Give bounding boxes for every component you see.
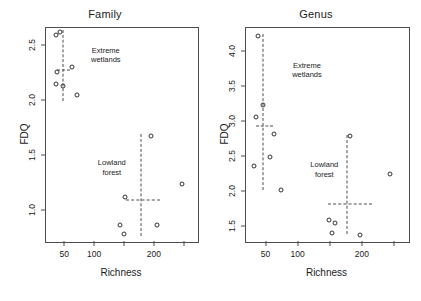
data-point bbox=[260, 102, 265, 107]
data-point bbox=[54, 70, 59, 75]
plot-area-family: Extreme wetlandsLowland forest bbox=[46, 28, 198, 242]
plot-area-genus: Extreme wetlandsLowland forest bbox=[246, 28, 409, 242]
data-point bbox=[329, 230, 334, 235]
x-tick-label: 50 bbox=[59, 249, 68, 259]
y-tick-label: 1.0 bbox=[26, 205, 38, 215]
x-tick bbox=[329, 241, 330, 246]
data-point bbox=[278, 188, 283, 193]
data-point bbox=[253, 115, 258, 120]
x-tick bbox=[94, 241, 95, 246]
data-point bbox=[347, 134, 352, 139]
x-axis-title-genus: Richness bbox=[306, 267, 347, 278]
y-tick bbox=[241, 121, 245, 122]
cluster-label-lowland-forest: Lowland forest bbox=[98, 158, 126, 177]
x-tick bbox=[183, 241, 184, 246]
data-point bbox=[267, 154, 272, 159]
crosshair-vertical-extreme-wetlands bbox=[263, 34, 264, 189]
y-axis-title-genus: FDQ bbox=[219, 123, 230, 144]
x-tick bbox=[297, 241, 298, 246]
crosshair-horizontal-extreme-wetlands bbox=[256, 125, 273, 126]
data-point bbox=[69, 64, 74, 69]
y-tick-label: 2.0 bbox=[26, 95, 38, 105]
data-point bbox=[252, 164, 257, 169]
y-tick-label: 3.5 bbox=[226, 81, 238, 91]
data-point bbox=[358, 233, 363, 238]
data-point bbox=[255, 33, 260, 38]
y-tick bbox=[41, 154, 45, 155]
x-tick-label: 100 bbox=[87, 249, 101, 259]
y-axis-title-family: FDQ bbox=[19, 123, 30, 144]
y-tick bbox=[241, 190, 245, 191]
y-tick bbox=[241, 51, 245, 52]
cluster-label-extreme-wetlands: Extreme wetlands bbox=[91, 46, 121, 65]
y-tick bbox=[41, 44, 45, 45]
crosshair-vertical-lowland-forest bbox=[140, 134, 141, 237]
cluster-label-extreme-wetlands: Extreme wetlands bbox=[292, 61, 322, 80]
y-tick bbox=[41, 99, 45, 100]
y-tick-label: 2.0 bbox=[226, 186, 238, 196]
x-tick bbox=[361, 241, 362, 246]
x-axis-title-family: Richness bbox=[100, 267, 141, 278]
data-point bbox=[58, 30, 63, 35]
x-tick-label: 200 bbox=[355, 249, 369, 259]
y-tick-label: 4.0 bbox=[226, 46, 238, 56]
data-point bbox=[53, 82, 58, 87]
panel-title-genus: Genus bbox=[211, 8, 421, 20]
panel-title-family: Family bbox=[0, 8, 210, 20]
data-point bbox=[121, 232, 126, 237]
y-tick-label: 2.5 bbox=[226, 151, 238, 161]
x-tick bbox=[265, 241, 266, 246]
y-tick-label: 2.5 bbox=[26, 40, 38, 50]
y-tick bbox=[241, 225, 245, 226]
x-tick-label: 50 bbox=[261, 249, 270, 259]
x-tick bbox=[123, 241, 124, 246]
data-point bbox=[388, 172, 393, 177]
y-tick bbox=[241, 155, 245, 156]
plot-frame-family: Extreme wetlandsLowland forest bbox=[45, 27, 199, 243]
y-tick-label: 1.5 bbox=[226, 221, 238, 231]
x-tick-label: 100 bbox=[291, 249, 305, 259]
plot-frame-genus: Extreme wetlandsLowland forest bbox=[245, 27, 410, 243]
crosshair-horizontal-lowland-forest bbox=[126, 200, 160, 201]
crosshair-vertical-lowland-forest bbox=[347, 135, 348, 235]
x-tick bbox=[153, 241, 154, 246]
data-point bbox=[154, 223, 159, 228]
panel-genus: Genus Extreme wetlandsLowland forest 1.5… bbox=[211, 0, 421, 301]
data-point bbox=[333, 221, 338, 226]
data-point bbox=[180, 181, 185, 186]
data-point bbox=[327, 217, 332, 222]
data-point bbox=[61, 84, 66, 89]
x-tick-label: 200 bbox=[147, 249, 161, 259]
data-point bbox=[118, 223, 123, 228]
x-tick bbox=[64, 241, 65, 246]
panel-family: Family Extreme wetlandsLowland forest 1.… bbox=[0, 0, 210, 301]
cluster-label-lowland-forest: Lowland forest bbox=[310, 160, 338, 179]
y-tick bbox=[41, 210, 45, 211]
data-point bbox=[148, 134, 153, 139]
y-tick-label: 1.5 bbox=[26, 150, 38, 160]
y-tick bbox=[241, 86, 245, 87]
data-point bbox=[75, 93, 80, 98]
data-point bbox=[122, 194, 127, 199]
x-tick bbox=[393, 241, 394, 246]
scatter-figure: Family Extreme wetlandsLowland forest 1.… bbox=[0, 0, 421, 301]
crosshair-horizontal-lowland-forest bbox=[328, 203, 373, 204]
data-point bbox=[272, 131, 277, 136]
crosshair-vertical-extreme-wetlands bbox=[62, 30, 63, 101]
